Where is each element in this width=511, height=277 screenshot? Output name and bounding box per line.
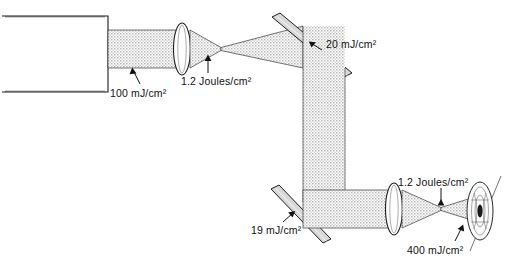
callout-source-fluence: 100 mJ/cm² (110, 68, 167, 100)
laser-beam-path-diagram: 100 mJ/cm² 1.2 Joules/cm² 20 mJ/cm² 19 m… (0, 0, 511, 277)
beam-segment-vertical-relay (303, 26, 345, 202)
beam-segment-lens1-to-upper-mirror (190, 26, 303, 68)
optics-diagram-canvas: 100 mJ/cm² 1.2 Joules/cm² 20 mJ/cm² 19 m… (0, 0, 511, 277)
lens-2-group (386, 183, 403, 235)
beam-collimated-2 (303, 190, 390, 228)
beam-segment-lower-mirror-to-lens2 (303, 190, 390, 228)
lens-2-icon (386, 183, 403, 235)
label-mirror-upper: 20 mJ/cm² (326, 38, 377, 50)
lens-1-icon (174, 23, 191, 75)
label-mirror-lower: 19 mJ/cm² (251, 224, 302, 236)
callout-eye-fluence-arrow (458, 225, 465, 232)
beam-vertical (303, 26, 345, 202)
beam-collimated-1 (108, 30, 182, 68)
laser-source-outline (2, 16, 108, 92)
label-source-fluence: 100 mJ/cm² (110, 87, 167, 99)
eye-pupil-icon (477, 205, 482, 218)
callout-source-fluence-arrow (130, 68, 137, 75)
laser-source-housing (2, 16, 108, 92)
callout-mirror-lower: 19 mJ/cm² (251, 211, 302, 236)
callout-focus-2-arrow (438, 199, 445, 206)
label-focus-2: 1.2 Joules/cm² (398, 176, 469, 188)
beam-converging-1 (190, 30, 221, 68)
beam-converging-2 (402, 190, 441, 228)
label-eye-fluence: 400 mJ/cm² (407, 244, 464, 256)
callout-eye-fluence: 400 mJ/cm² (407, 225, 464, 257)
lens-1-group (174, 23, 191, 75)
label-focus-1: 1.2 Joules/cm² (181, 75, 252, 87)
eye-target-group (467, 176, 501, 251)
beam-segment-source-to-lens1 (108, 30, 182, 68)
